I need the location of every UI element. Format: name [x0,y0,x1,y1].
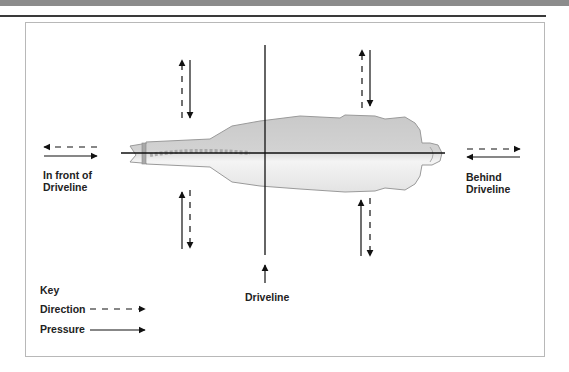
key-title: Key [40,284,59,296]
front-of-driveline-label: In front of Driveline [43,169,92,193]
key-pressure-label: Pressure [40,323,85,335]
behind-driveline-label: Behind Driveline [466,171,510,195]
driveline-label: Driveline [245,291,289,303]
key-direction-label: Direction [40,303,86,315]
